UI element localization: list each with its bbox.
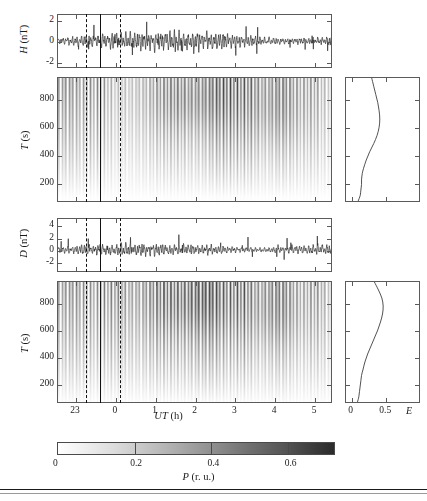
y-tick xyxy=(58,21,62,22)
panel-d-spectrogram xyxy=(57,281,332,403)
y-tick xyxy=(327,184,331,185)
y-tick xyxy=(327,263,331,264)
x-tick xyxy=(156,267,157,271)
y-tick xyxy=(58,184,62,185)
x-tick xyxy=(315,15,316,19)
y-tick-label: 800 xyxy=(20,298,54,308)
x-tick xyxy=(76,282,77,286)
y-tick xyxy=(327,226,331,227)
e-y-tick xyxy=(346,304,350,305)
e-x-tick xyxy=(386,282,387,286)
y-tick xyxy=(58,42,62,43)
x-tick xyxy=(196,78,197,82)
y-tick xyxy=(327,239,331,240)
y-tick-label: 0 xyxy=(20,36,54,46)
e-y-tick xyxy=(415,184,419,185)
y-tick xyxy=(58,226,62,227)
e-y-tick xyxy=(346,358,350,359)
e-y-tick xyxy=(415,358,419,359)
y-tick-label: 200 xyxy=(20,379,54,389)
y-tick xyxy=(327,156,331,157)
e-y-tick xyxy=(415,156,419,157)
t-axis-title-top: T (s) xyxy=(20,110,31,170)
x-tick xyxy=(156,78,157,82)
e-y-tick xyxy=(346,100,350,101)
dashed-marker-line-1 xyxy=(86,281,87,403)
panel-d-timeseries xyxy=(57,218,332,272)
e-y-tick xyxy=(415,331,419,332)
e-y-tick xyxy=(346,385,350,386)
x-tick xyxy=(315,219,316,223)
dashed-marker-line-2 xyxy=(120,281,121,403)
y-tick-label: 200 xyxy=(20,178,54,188)
x-tick xyxy=(156,398,157,402)
x-tick xyxy=(116,282,117,286)
y-tick xyxy=(58,263,62,264)
e-y-tick xyxy=(415,385,419,386)
y-tick-label: 400 xyxy=(20,352,54,362)
y-tick xyxy=(327,128,331,129)
colorbar-title: P (r. u.) xyxy=(0,472,427,483)
y-tick xyxy=(327,304,331,305)
x-tick xyxy=(235,78,236,82)
e-y-tick xyxy=(346,184,350,185)
y-tick-label: 4 xyxy=(20,221,54,231)
x-tick xyxy=(76,15,77,19)
x-tick xyxy=(116,78,117,82)
panel-h-spectrogram xyxy=(57,77,332,202)
footer-rule xyxy=(0,489,427,490)
x-tick xyxy=(235,282,236,286)
y-tick xyxy=(327,21,331,22)
y-tick-label: 800 xyxy=(20,94,54,104)
y-tick xyxy=(58,63,62,64)
panel-e-profile-top xyxy=(345,77,420,202)
y-tick-label: -2 xyxy=(20,257,54,267)
x-tick xyxy=(196,63,197,67)
dashed-marker-line-2 xyxy=(120,77,121,202)
e-x-tick xyxy=(386,197,387,201)
x-tick xyxy=(116,197,117,201)
figure-root: H (nT) T (s) D (nT) T (s) 23012345 UT (h… xyxy=(0,0,427,501)
dashed-marker-line-2 xyxy=(120,14,121,68)
x-tick xyxy=(76,78,77,82)
x-tick xyxy=(315,197,316,201)
x-tick xyxy=(196,219,197,223)
x-tick xyxy=(235,197,236,201)
solid-marker-line xyxy=(100,218,101,272)
x-tick xyxy=(116,15,117,19)
y-tick xyxy=(58,304,62,305)
x-tick xyxy=(275,78,276,82)
e-x-tick xyxy=(386,398,387,402)
footer-rule-secondary xyxy=(0,493,427,494)
y-tick-label: -2 xyxy=(20,57,54,67)
e-profile-bottom-curve xyxy=(346,282,419,402)
solid-marker-line xyxy=(100,77,101,202)
x-tick xyxy=(76,398,77,402)
x-tick xyxy=(196,282,197,286)
colorbar-divider xyxy=(211,443,212,454)
x-tick xyxy=(235,63,236,67)
colorbar-tick-label: 0 xyxy=(53,459,58,469)
e-x-tick xyxy=(352,78,353,82)
x-tick xyxy=(315,398,316,402)
x-tick xyxy=(196,197,197,201)
x-tick xyxy=(76,267,77,271)
y-tick xyxy=(58,128,62,129)
e-x-tick xyxy=(386,78,387,82)
y-tick xyxy=(327,42,331,43)
panel-h-timeseries xyxy=(57,14,332,68)
x-tick xyxy=(116,267,117,271)
y-tick xyxy=(327,63,331,64)
solid-marker-line xyxy=(100,281,101,403)
x-tick xyxy=(275,282,276,286)
dashed-marker-line-2 xyxy=(120,218,121,272)
e-x-tick xyxy=(352,398,353,402)
x-tick xyxy=(196,15,197,19)
e-y-tick xyxy=(346,156,350,157)
x-tick xyxy=(116,398,117,402)
x-tick xyxy=(156,282,157,286)
e-y-tick xyxy=(415,128,419,129)
y-tick-label: 600 xyxy=(20,325,54,335)
y-tick xyxy=(327,385,331,386)
dashed-marker-line-1 xyxy=(86,218,87,272)
